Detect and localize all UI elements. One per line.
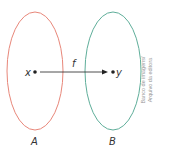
image-credit: Banco de imagens/ Arquivo da editora <box>140 56 153 103</box>
credit-line-1: Banco de imagens/ <box>140 56 147 103</box>
label-f: f <box>72 58 77 69</box>
label-set-b: B <box>109 136 116 147</box>
point-x <box>33 70 37 74</box>
label-set-a: A <box>30 136 38 147</box>
point-y <box>111 70 115 74</box>
arrowhead-icon <box>102 70 108 75</box>
credit-line-2: Arquivo da editora <box>146 56 153 103</box>
label-y: y <box>115 67 123 78</box>
label-x: x <box>24 67 31 78</box>
